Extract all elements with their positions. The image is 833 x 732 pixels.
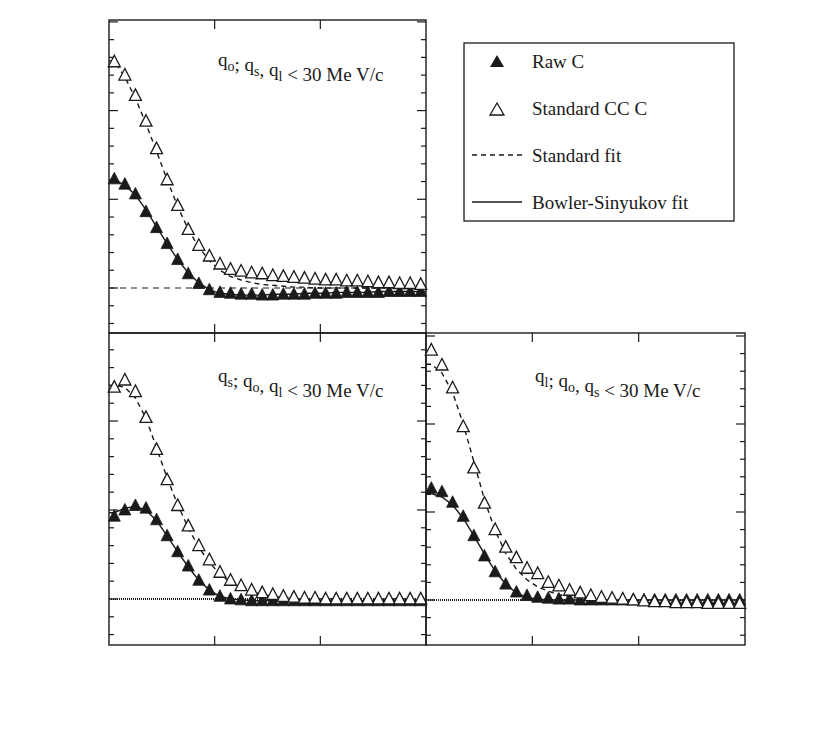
panel-bottom-right: ql; qo, qs < 30 Me V/c bbox=[425, 333, 745, 645]
standard-cc-c-marker bbox=[267, 269, 279, 281]
raw-c-marker bbox=[235, 288, 247, 300]
standard-cc-c-marker bbox=[415, 278, 427, 290]
standard-cc-c-marker bbox=[161, 173, 173, 185]
standard-cc-c-marker bbox=[309, 273, 321, 285]
standard-cc-c-marker bbox=[595, 591, 607, 603]
legend-label: Standard fit bbox=[532, 145, 622, 166]
raw-c-marker bbox=[151, 221, 163, 233]
standard-cc-c-marker bbox=[341, 274, 353, 286]
standard-cc-c-marker bbox=[542, 576, 554, 588]
raw-c-marker bbox=[521, 589, 533, 601]
standard-cc-c-marker bbox=[447, 381, 459, 393]
legend: Raw C Standard CC C Standard fit Bowler-… bbox=[464, 43, 734, 221]
standard-fit-line bbox=[109, 385, 426, 599]
raw-c-marker bbox=[510, 585, 522, 597]
standard-cc-c-marker bbox=[383, 276, 395, 288]
panel-top-left: qo; qs, ql < 30 Me V/c bbox=[108, 20, 426, 333]
raw-c-marker bbox=[489, 565, 501, 577]
bowler-sinyukov-fit-line bbox=[426, 494, 745, 601]
standard-cc-c-marker bbox=[425, 343, 437, 355]
raw-c-marker bbox=[277, 288, 289, 300]
standard-cc-c-marker bbox=[235, 265, 247, 277]
standard-cc-c-marker bbox=[203, 553, 215, 565]
standard-cc-c-marker bbox=[351, 274, 363, 286]
standard-cc-c-marker bbox=[330, 273, 342, 285]
raw-c-marker bbox=[532, 591, 544, 603]
raw-c-marker bbox=[214, 590, 226, 602]
standard-cc-c-marker bbox=[129, 385, 141, 397]
raw-c-marker bbox=[129, 499, 141, 511]
panel-bottom-left: qs; qo, ql < 30 Me V/c bbox=[108, 333, 426, 645]
standard-cc-c-marker bbox=[151, 142, 163, 154]
legend-label: Standard CC C bbox=[532, 98, 647, 119]
raw-c-marker bbox=[108, 172, 120, 184]
standard-cc-c-marker bbox=[172, 499, 184, 511]
standard-cc-c-marker bbox=[394, 277, 406, 289]
standard-cc-c-marker bbox=[256, 586, 268, 598]
standard-cc-c-marker bbox=[172, 199, 184, 211]
standard-cc-c-marker bbox=[182, 223, 194, 235]
standard-cc-c-marker bbox=[309, 592, 321, 604]
standard-cc-c-marker bbox=[372, 276, 384, 288]
raw-c-marker bbox=[203, 283, 215, 295]
standard-cc-c-marker bbox=[372, 592, 384, 604]
standard-cc-c-marker bbox=[214, 257, 226, 269]
standard-cc-c-marker bbox=[404, 277, 416, 289]
standard-cc-c-marker bbox=[320, 273, 332, 285]
standard-cc-c-marker bbox=[267, 588, 279, 600]
standard-cc-c-marker bbox=[277, 270, 289, 282]
raw-c-marker bbox=[246, 288, 258, 300]
raw-c-marker bbox=[151, 513, 163, 525]
standard-cc-c-marker bbox=[436, 358, 448, 370]
legend-label: Raw C bbox=[532, 51, 584, 72]
raw-c-marker bbox=[182, 267, 194, 279]
raw-c-marker bbox=[542, 592, 554, 604]
standard-cc-c-marker bbox=[564, 584, 576, 596]
standard-cc-c-marker bbox=[298, 272, 310, 284]
standard-cc-c-marker bbox=[574, 586, 586, 598]
standard-cc-c-marker bbox=[478, 497, 490, 509]
panel-annotation: qo; qs, ql < 30 Me V/c bbox=[218, 49, 384, 85]
standard-cc-c-marker bbox=[617, 593, 629, 605]
raw-c-marker bbox=[478, 549, 490, 561]
raw-c-marker bbox=[119, 503, 131, 515]
standard-cc-c-marker bbox=[214, 566, 226, 578]
standard-cc-c-marker bbox=[151, 443, 163, 455]
raw-c-marker bbox=[161, 237, 173, 249]
raw-c-marker bbox=[553, 593, 565, 605]
correlation-function-figure: qo; qs, ql < 30 Me V/cqs; qo, ql < 30 Me… bbox=[0, 0, 833, 732]
standard-cc-c-marker bbox=[140, 411, 152, 423]
standard-cc-c-marker bbox=[119, 69, 131, 81]
standard-cc-c-marker bbox=[140, 115, 152, 127]
raw-c-marker bbox=[140, 205, 152, 217]
standard-cc-c-marker bbox=[521, 562, 533, 574]
standard-cc-c-marker bbox=[362, 275, 374, 287]
panel-annotation: qs; qo, ql < 30 Me V/c bbox=[218, 365, 384, 401]
raw-c-marker bbox=[436, 485, 448, 497]
standard-cc-c-marker bbox=[553, 579, 565, 591]
raw-c-marker bbox=[140, 502, 152, 514]
panel-annotation: ql; qo, qs < 30 Me V/c bbox=[535, 365, 701, 401]
standard-cc-c-marker bbox=[489, 523, 501, 535]
standard-cc-c-marker bbox=[246, 266, 258, 278]
standard-cc-c-marker bbox=[182, 519, 194, 531]
standard-cc-c-marker bbox=[119, 373, 131, 385]
standard-cc-c-marker bbox=[256, 267, 268, 279]
standard-fit-line bbox=[109, 61, 426, 288]
standard-cc-c-marker bbox=[415, 592, 427, 604]
standard-cc-c-marker bbox=[468, 461, 480, 473]
standard-cc-c-marker bbox=[246, 584, 258, 596]
standard-cc-c-marker bbox=[193, 539, 205, 551]
raw-c-marker bbox=[172, 253, 184, 265]
standard-cc-c-marker bbox=[341, 592, 353, 604]
standard-cc-c-marker bbox=[606, 592, 618, 604]
standard-cc-c-marker bbox=[500, 541, 512, 553]
standard-cc-c-marker bbox=[288, 271, 300, 283]
standard-cc-c-marker bbox=[161, 473, 173, 485]
raw-c-marker bbox=[172, 545, 184, 557]
raw-c-marker bbox=[457, 510, 469, 522]
raw-c-marker bbox=[468, 529, 480, 541]
standard-cc-c-marker bbox=[585, 589, 597, 601]
standard-cc-c-marker bbox=[298, 592, 310, 604]
legend-label: Bowler-Sinyukov fit bbox=[532, 192, 689, 213]
